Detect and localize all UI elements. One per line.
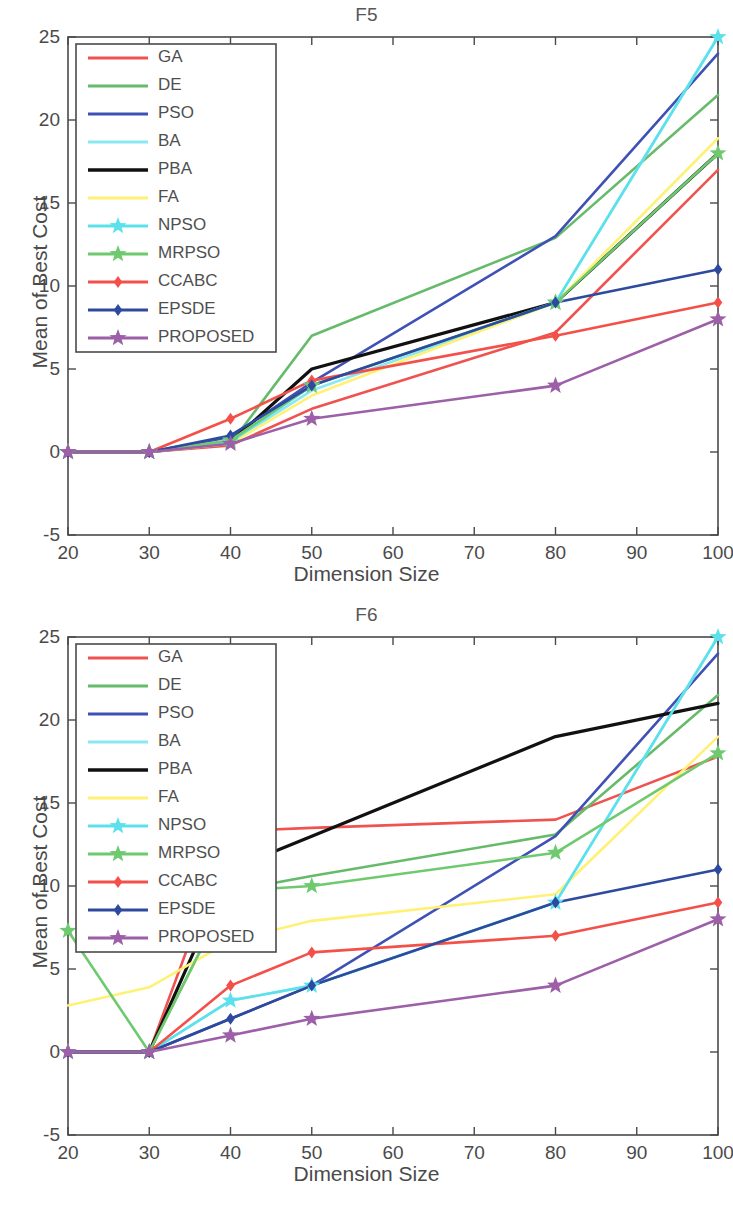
legend-label-fa: FA bbox=[158, 187, 179, 206]
legend-label-pso: PSO bbox=[158, 103, 194, 122]
chart-f5: F5 2030405060708090100-50510152025GADEPS… bbox=[0, 0, 733, 600]
y-axis-label-f6: Mean of Best Cost bbox=[28, 682, 52, 1082]
y-axis-label-f5: Mean of Best Cost bbox=[28, 82, 52, 482]
x-tick-label: 40 bbox=[220, 542, 241, 563]
legend-label-ba: BA bbox=[158, 131, 181, 150]
legend-label-epsde: EPSDE bbox=[158, 899, 216, 918]
marker-diamond-ccabc bbox=[226, 413, 235, 425]
x-tick-label: 60 bbox=[382, 1142, 403, 1163]
legend: GADEPSOBAPBAFANPSOMRPSOCCABCEPSDEPROPOSE… bbox=[76, 644, 276, 952]
x-tick-label: 20 bbox=[57, 542, 78, 563]
legend-label-npso: NPSO bbox=[158, 815, 206, 834]
legend-label-de: DE bbox=[158, 675, 182, 694]
y-tick-label: 25 bbox=[39, 26, 60, 47]
legend-label-mrpso: MRPSO bbox=[158, 243, 220, 262]
legend-label-npso: NPSO bbox=[158, 215, 206, 234]
x-tick-label: 70 bbox=[464, 542, 485, 563]
marker-diamond-ccabc bbox=[226, 980, 235, 992]
legend-label-pso: PSO bbox=[158, 703, 194, 722]
legend-label-ga: GA bbox=[158, 47, 183, 66]
legend-label-ga: GA bbox=[158, 647, 183, 666]
legend-label-ccabc: CCABC bbox=[158, 271, 218, 290]
legend-label-ba: BA bbox=[158, 731, 181, 750]
legend-label-pba: PBA bbox=[158, 759, 193, 778]
legend-label-mrpso: MRPSO bbox=[158, 843, 220, 862]
marker-diamond-ccabc bbox=[551, 330, 560, 342]
marker-star-mrpso bbox=[303, 877, 320, 893]
marker-diamond-epsde bbox=[714, 263, 723, 275]
plot-area-f6: 2030405060708090100-50510152025GADEPSOBA… bbox=[0, 600, 733, 1200]
x-tick-label: 100 bbox=[702, 542, 733, 563]
y-tick-label: 25 bbox=[39, 626, 60, 647]
x-tick-label: 60 bbox=[382, 542, 403, 563]
x-tick-label: 30 bbox=[139, 542, 160, 563]
x-tick-label: 40 bbox=[220, 1142, 241, 1163]
marker-star-proposed bbox=[547, 377, 564, 393]
marker-star-proposed bbox=[222, 1026, 239, 1042]
chart-f6: F6 2030405060708090100-50510152025GADEPS… bbox=[0, 600, 733, 1200]
legend-label-proposed: PROPOSED bbox=[158, 927, 254, 946]
legend-label-pba: PBA bbox=[158, 159, 193, 178]
legend-label-ccabc: CCABC bbox=[158, 871, 218, 890]
x-tick-label: 80 bbox=[545, 1142, 566, 1163]
x-tick-label: 100 bbox=[702, 1142, 733, 1163]
y-tick-label: -5 bbox=[43, 524, 60, 545]
marker-star-proposed bbox=[303, 1010, 320, 1026]
x-tick-label: 90 bbox=[626, 542, 647, 563]
x-axis-label-f6: Dimension Size bbox=[0, 1162, 733, 1186]
y-tick-label: -5 bbox=[43, 1124, 60, 1145]
marker-diamond-ccabc bbox=[714, 897, 723, 909]
legend-label-epsde: EPSDE bbox=[158, 299, 216, 318]
x-tick-label: 90 bbox=[626, 1142, 647, 1163]
legend: GADEPSOBAPBAFANPSOMRPSOCCABCEPSDEPROPOSE… bbox=[76, 44, 276, 352]
x-tick-label: 70 bbox=[464, 1142, 485, 1163]
x-tick-label: 50 bbox=[301, 542, 322, 563]
plot-area-f5: 2030405060708090100-50510152025GADEPSOBA… bbox=[0, 0, 733, 600]
marker-diamond-epsde bbox=[226, 1013, 235, 1025]
marker-diamond-ccabc bbox=[551, 930, 560, 942]
marker-diamond-ccabc bbox=[714, 297, 723, 309]
marker-diamond-epsde bbox=[714, 863, 723, 875]
x-tick-label: 80 bbox=[545, 542, 566, 563]
x-tick-label: 20 bbox=[57, 1142, 78, 1163]
marker-diamond-ccabc bbox=[307, 946, 316, 958]
marker-star-proposed bbox=[547, 977, 564, 993]
legend-label-fa: FA bbox=[158, 787, 179, 806]
legend-label-proposed: PROPOSED bbox=[158, 327, 254, 346]
marker-star-mrpso bbox=[547, 844, 564, 860]
x-axis-label-f5: Dimension Size bbox=[0, 562, 733, 586]
figure-page: F5 2030405060708090100-50510152025GADEPS… bbox=[0, 0, 733, 1207]
x-tick-label: 50 bbox=[301, 1142, 322, 1163]
x-tick-label: 30 bbox=[139, 1142, 160, 1163]
legend-label-de: DE bbox=[158, 75, 182, 94]
